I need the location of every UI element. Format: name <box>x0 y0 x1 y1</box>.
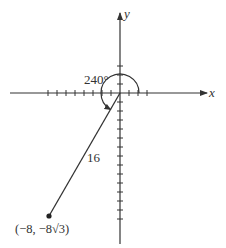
angle-label: 240° <box>84 72 109 87</box>
y-axis-label: y <box>122 6 130 21</box>
point-label: (−8, −8√3) <box>15 222 69 236</box>
endpoint-dot <box>46 213 51 218</box>
segment-length-label: 16 <box>87 150 101 165</box>
x-axis-label: x <box>208 85 215 100</box>
terminal-side-segment <box>46 93 120 219</box>
diagram-canvas: y x 240° 16 (−8, −8√3) <box>0 0 226 248</box>
